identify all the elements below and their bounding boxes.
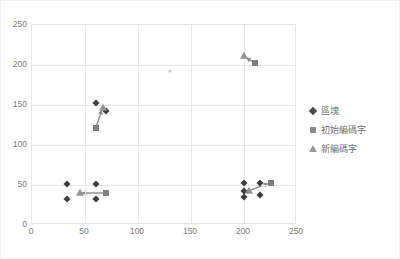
legend-item[interactable]: 區塊	[307, 101, 399, 120]
data-point-diamond	[63, 196, 70, 203]
x-axis: 050100150200250	[31, 227, 296, 241]
plot-area	[31, 24, 296, 224]
gridline-horizontal	[32, 105, 295, 106]
legend-item[interactable]: 初始編碼字	[307, 120, 399, 139]
data-point-triangle	[240, 52, 248, 59]
data-point-diamond	[92, 196, 99, 203]
x-tick-label: 200	[228, 227, 258, 236]
data-point-diamond	[92, 181, 99, 188]
data-point-triangle	[76, 189, 84, 196]
gridline-vertical	[191, 25, 192, 223]
legend-item-label: 新編碼字	[321, 144, 357, 154]
y-axis: 050100150200250	[1, 24, 27, 224]
data-point-triangle	[245, 186, 253, 193]
data-point-square	[93, 125, 99, 131]
gridline-horizontal	[32, 145, 295, 146]
data-point-square	[268, 180, 274, 186]
faint-mark	[168, 69, 171, 72]
data-point-diamond	[63, 181, 70, 188]
square-icon	[307, 127, 318, 133]
data-point-square	[103, 190, 109, 196]
data-point-diamond	[256, 191, 263, 198]
triangle-icon	[307, 145, 318, 152]
y-tick-label: 250	[3, 20, 27, 29]
scatter-chart: 050100150200250 050100150200250 區塊初始編碼字新…	[0, 0, 400, 259]
x-tick-label: 50	[69, 227, 99, 236]
gridline-vertical	[138, 25, 139, 223]
data-point-square	[252, 60, 258, 66]
y-tick-label: 50	[3, 180, 27, 189]
gridline-horizontal	[32, 185, 295, 186]
data-point-diamond	[240, 193, 247, 200]
x-tick-label: 150	[175, 227, 205, 236]
y-tick-label: 100	[3, 140, 27, 149]
y-tick-label: 200	[3, 60, 27, 69]
x-tick-label: 0	[16, 227, 46, 236]
chart-legend: 區塊初始編碼字新編碼字	[307, 101, 399, 158]
data-point-triangle	[99, 104, 107, 111]
legend-item[interactable]: 新編碼字	[307, 139, 399, 158]
legend-item-label: 區塊	[321, 106, 339, 116]
y-tick-label: 150	[3, 100, 27, 109]
x-tick-label: 100	[122, 227, 152, 236]
legend-item-label: 初始編碼字	[321, 125, 366, 135]
gridline-vertical	[85, 25, 86, 223]
diamond-icon	[307, 108, 318, 114]
x-tick-label: 250	[281, 227, 311, 236]
